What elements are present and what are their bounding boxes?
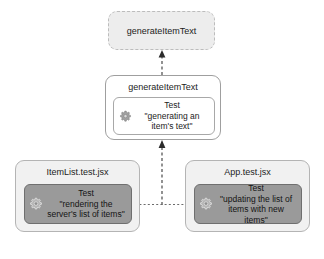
test-description: "rendering the server's list of items" [47,199,125,220]
test-description: "updating the list of items with new ite… [217,194,295,226]
test-card-rendering-server-list[interactable]: Test "rendering the server's list of ite… [24,184,132,224]
node-title-item-list-suite: ItemList.test.jsx [16,167,139,178]
test-label: Test [136,100,208,111]
gear-icon [195,197,217,211]
test-card-generating-item-text[interactable]: Test "generating an item's text" [113,97,215,135]
test-text-block: Test "generating an item's text" [136,100,214,132]
diagram-canvas: generateItemText generateItemText Test "… [0,0,324,259]
node-title-module: generateItemText [109,26,214,37]
test-label: Test [217,183,295,194]
node-generate-item-text-module[interactable]: generateItemText [108,11,215,50]
node-app-test-suite[interactable]: App.test.jsx Test "updating the list of … [185,160,310,232]
node-title-app-suite: App.test.jsx [186,167,309,178]
gear-icon [25,197,47,211]
test-label: Test [47,188,125,199]
test-description: "generating an item's text" [136,111,208,132]
test-text-block: Test "rendering the server's list of ite… [47,188,131,220]
node-item-list-test-suite[interactable]: ItemList.test.jsx Test "rendering the se… [15,160,140,232]
test-text-block: Test "updating the list of items with ne… [217,183,301,225]
node-title-unit-suite: generateItemText [106,82,220,93]
node-generate-item-text-suite[interactable]: generateItemText Test "generating an ite… [105,75,221,140]
gear-icon [114,110,136,123]
test-card-updating-list[interactable]: Test "updating the list of items with ne… [194,184,302,224]
